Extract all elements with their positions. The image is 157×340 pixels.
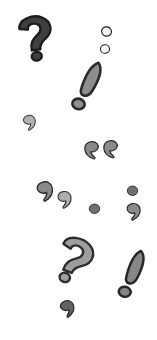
comma-bottom-glyph bbox=[55, 297, 79, 322]
exclamation-mark-glyph bbox=[55, 53, 122, 131]
hollow-dot-upper-glyph bbox=[99, 24, 114, 39]
period-dot-center-glyph bbox=[88, 202, 101, 215]
opening-quote-right-glyph bbox=[101, 139, 121, 160]
hollow-dot-lower-glyph bbox=[98, 42, 111, 55]
punctuation-illustration-canvas bbox=[0, 0, 157, 340]
opening-quote-left-glyph bbox=[82, 140, 102, 161]
comma-right-edge-glyph bbox=[123, 201, 145, 223]
exclamation-mark-lower-glyph bbox=[103, 243, 157, 316]
period-dot-right-glyph bbox=[126, 184, 139, 197]
question-mark-rotated-glyph bbox=[39, 227, 105, 299]
comma-small-glyph bbox=[19, 112, 39, 133]
closing-comma-small-glyph bbox=[53, 189, 75, 212]
question-mark-glyph bbox=[9, 10, 62, 72]
